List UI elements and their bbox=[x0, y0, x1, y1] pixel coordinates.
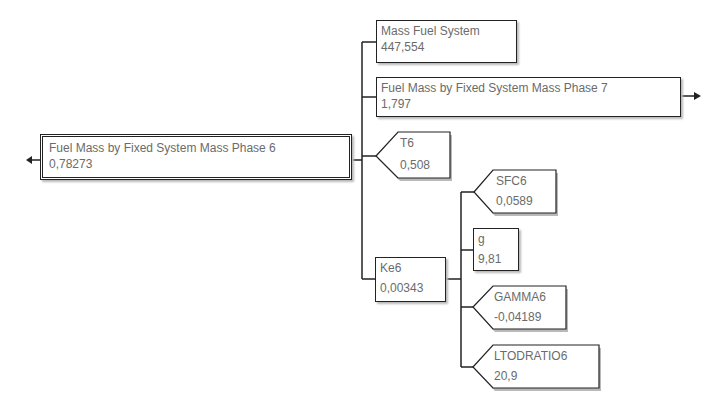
node-label: SFC6 bbox=[496, 173, 556, 189]
node-ltodratio6[interactable]: LTODRATIO6 20,9 bbox=[494, 346, 598, 388]
node-fuel-mass-phase7[interactable]: Fuel Mass by Fixed System Mass Phase 7 1… bbox=[376, 77, 681, 117]
node-value: 9,81 bbox=[478, 251, 514, 267]
node-g[interactable]: g 9,81 bbox=[473, 228, 519, 271]
node-label: Fuel Mass by Fixed System Mass Phase 6 bbox=[49, 140, 343, 156]
node-value: 0,78273 bbox=[49, 156, 343, 172]
node-value: 447,554 bbox=[381, 39, 512, 55]
node-label: Fuel Mass by Fixed System Mass Phase 7 bbox=[381, 80, 676, 96]
node-label: Ke6 bbox=[380, 260, 441, 276]
right-arrow-icon bbox=[694, 92, 701, 100]
node-label: g bbox=[478, 231, 514, 247]
node-sfc6[interactable]: SFC6 0,0589 bbox=[496, 171, 556, 213]
node-value: 0,508 bbox=[400, 157, 448, 173]
node-value: -0,04189 bbox=[494, 309, 564, 325]
node-gamma6[interactable]: GAMMA6 -0,04189 bbox=[494, 287, 564, 329]
node-value: 0,00343 bbox=[380, 280, 441, 296]
connector-lines bbox=[0, 0, 727, 409]
node-label: Mass Fuel System bbox=[381, 23, 512, 39]
node-t6[interactable]: T6 0,508 bbox=[398, 133, 450, 178]
left-arrow-icon bbox=[26, 156, 32, 164]
node-ke6[interactable]: Ke6 0,00343 bbox=[375, 257, 446, 302]
node-label: T6 bbox=[400, 135, 448, 151]
node-value: 0,0589 bbox=[496, 193, 556, 209]
node-mass-fuel-system[interactable]: Mass Fuel System 447,554 bbox=[376, 20, 517, 63]
node-value: 20,9 bbox=[494, 368, 598, 384]
node-label: GAMMA6 bbox=[494, 289, 564, 305]
node-label: LTODRATIO6 bbox=[494, 348, 598, 364]
node-value: 1,797 bbox=[381, 96, 676, 112]
root-node-fuel-mass-phase6[interactable]: Fuel Mass by Fixed System Mass Phase 6 0… bbox=[40, 134, 352, 180]
